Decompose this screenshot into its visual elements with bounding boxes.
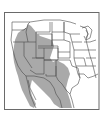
range-map	[0, 0, 108, 117]
